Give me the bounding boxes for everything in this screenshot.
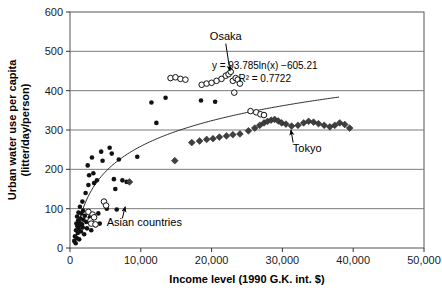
data-point [85, 226, 90, 231]
r-squared-label: R² = 0.7722 [238, 73, 291, 84]
annotation-label-asian-countries: Asian countries [107, 216, 183, 228]
annotation-label-tokyo: Tokyo [293, 142, 322, 154]
y-tick-label: 400 [45, 85, 63, 97]
data-point [99, 149, 104, 154]
x-tick-label: 10,000 [124, 254, 158, 266]
data-point [83, 191, 88, 196]
data-point [85, 163, 90, 168]
y-tick-label: 200 [45, 163, 63, 175]
data-point [77, 237, 82, 242]
regression-equation-label: y = 93.785ln(x) −605.21 [212, 60, 318, 71]
y-tick-label: 600 [45, 6, 63, 18]
data-point [213, 99, 218, 104]
x-axis-title: Income level (1990 G.K. int. $) [169, 273, 325, 285]
data-point [90, 155, 95, 160]
y-tick-label: 100 [45, 203, 63, 215]
data-point [96, 211, 101, 216]
data-point [93, 222, 99, 228]
data-point [183, 77, 189, 83]
x-tick-label: 50,000 [407, 254, 441, 266]
data-point [107, 145, 112, 150]
data-point [82, 232, 87, 237]
y-axis-title-line1: Urban water use per capita [6, 59, 18, 200]
x-tick-label: 40,000 [336, 254, 370, 266]
x-tick-label: 20,000 [195, 254, 229, 266]
data-point [149, 100, 154, 105]
data-point [100, 158, 105, 163]
data-point [112, 177, 117, 182]
data-point [261, 112, 267, 118]
x-tick-label: 0 [67, 254, 73, 266]
data-point [87, 173, 92, 178]
data-point [95, 178, 100, 183]
data-point [109, 151, 114, 156]
y-tick-label: 300 [45, 124, 63, 136]
data-point [114, 207, 119, 212]
data-point [120, 178, 125, 183]
data-point [91, 171, 96, 176]
y-tick-label: 0 [57, 242, 63, 254]
data-point [117, 157, 122, 162]
chart-container: 0100200300400500600 010,00020,00030,0004… [0, 0, 442, 299]
annotation-label-osaka: Osaka [210, 30, 243, 42]
data-point [135, 154, 140, 159]
data-point [89, 228, 94, 233]
data-point [113, 187, 118, 192]
data-point [231, 90, 237, 96]
scatter-chart: 0100200300400500600 010,00020,00030,0004… [0, 0, 442, 299]
data-point [80, 225, 85, 230]
data-point [91, 215, 97, 221]
data-point [81, 208, 86, 213]
x-tick-label: 30,000 [266, 254, 300, 266]
y-axis-title-line2: (litter/day/person) [19, 83, 31, 176]
data-point [80, 199, 85, 204]
data-point [248, 108, 254, 114]
data-point [154, 121, 159, 126]
data-point [163, 95, 168, 100]
data-point [86, 183, 91, 188]
y-axis-ticks: 0100200300400500600 [45, 6, 70, 254]
data-point [103, 203, 109, 209]
data-point [73, 241, 78, 246]
data-point [78, 204, 83, 209]
x-axis-ticks: 010,00020,00030,00040,00050,000 [67, 248, 441, 266]
data-point [199, 98, 204, 103]
y-tick-label: 500 [45, 45, 63, 57]
